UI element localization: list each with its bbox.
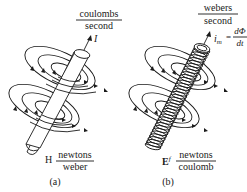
arrow-icon — [24, 108, 28, 113]
panel-b: im = dΦ dt webers second Ef newtons coul… — [123, 2, 247, 188]
panel-a: I coulombs second H newtons weber (a) — [3, 8, 122, 188]
equation-denominator-b: dt — [236, 38, 244, 48]
equals-sign-b: = — [226, 32, 231, 42]
field-symbol-a: H — [45, 154, 52, 165]
arrow-icon — [182, 118, 186, 122]
arrow-icon — [72, 124, 76, 128]
current-arrow-b — [204, 31, 211, 44]
current-arrow-a — [84, 35, 92, 50]
arrow-up-icon — [206, 31, 211, 37]
arrow-icon — [62, 118, 66, 122]
equation-numerator-b: dΦ — [234, 26, 246, 36]
field-symbol-b: Ef — [162, 155, 172, 167]
arrow-icon — [214, 84, 218, 88]
arrow-icon — [52, 70, 56, 75]
arrow-icon — [172, 70, 176, 75]
arrow-icon — [224, 88, 228, 92]
current-symbol-a: I — [93, 33, 98, 44]
arrow-icon — [144, 108, 148, 113]
arrow-up-icon — [87, 35, 92, 41]
arrow-icon — [192, 124, 196, 128]
source-units-denominator-b: second — [204, 15, 232, 26]
source-units-numerator-a: coulombs — [80, 8, 119, 19]
field-units-denominator-b: coulomb — [179, 161, 214, 172]
field-units-denominator-a: weber — [63, 161, 88, 172]
current-symbol-b: im — [214, 33, 222, 46]
panel-caption-b: (b) — [162, 176, 174, 188]
arrow-icon — [204, 128, 208, 132]
field-units-numerator-a: newtons — [58, 149, 91, 160]
field-units-numerator-b: newtons — [179, 149, 212, 160]
arrow-icon — [104, 88, 108, 92]
conductor-coil-b — [144, 42, 210, 151]
conductor-rod-a — [26, 48, 91, 155]
arrow-icon — [84, 128, 88, 132]
source-units-denominator-a: second — [85, 20, 113, 31]
arrow-icon — [94, 84, 98, 88]
panel-caption-a: (a) — [49, 176, 60, 188]
diagram-canvas: I coulombs second H newtons weber (a) — [0, 0, 247, 192]
source-units-numerator-b: webers — [204, 2, 232, 13]
